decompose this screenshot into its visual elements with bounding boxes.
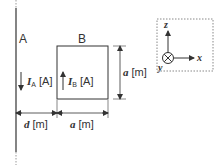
side-dimension-unit: [m] (132, 66, 147, 78)
distance-dimension-label: d [m] (24, 118, 48, 130)
axis-z-label: z (164, 19, 168, 31)
loop-b (57, 46, 108, 99)
width-dimension-label: a [m] (70, 118, 94, 130)
width-dimension-unit: [m] (79, 118, 94, 130)
distance-dimension-unit: [m] (33, 118, 48, 130)
axis-x-label: x (197, 52, 202, 64)
side-dimension-symbol: a (123, 66, 129, 78)
current-a-label: IA [A] (27, 75, 52, 89)
loop-b-label: B (78, 33, 86, 45)
width-dimension-symbol: a (70, 118, 76, 130)
distance-dimension-symbol: d (24, 118, 30, 130)
current-b-unit: [A] (80, 75, 93, 87)
axis-y-label: y (158, 62, 162, 74)
side-dimension-label: a [m] (123, 66, 147, 78)
current-a-unit: [A] (39, 75, 52, 87)
wire-a-label: A (19, 33, 27, 45)
current-a-subscript: A (31, 81, 36, 88)
current-b-label: IB [A] (68, 75, 93, 89)
current-b-subscript: B (72, 81, 77, 88)
bottom-dimension-lines (16, 100, 108, 118)
